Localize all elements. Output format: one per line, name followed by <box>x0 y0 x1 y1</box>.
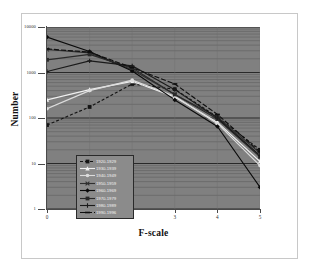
y-axis-tick-label: 1 <box>34 206 36 211</box>
y-axis-tick <box>38 164 45 165</box>
legend-marker-icon <box>79 165 96 172</box>
legend-item-label: 1920-1929 <box>96 158 116 165</box>
legend-item-label: 1970-1979 <box>96 195 116 202</box>
legend-item[interactable]: 1920-1929 <box>78 158 132 165</box>
x-axis-tick-label: 4 <box>211 214 223 220</box>
legend-item[interactable]: 1990-1996 <box>78 209 132 216</box>
x-axis-tick-label: 3 <box>169 214 181 220</box>
legend-item-label: 1980-1989 <box>96 202 116 209</box>
legend-item-label: 1950-1959 <box>96 180 116 187</box>
chart-figure: 100001000100101 012345 F-scale Number 19… <box>0 0 319 272</box>
y-axis-tick <box>38 73 45 74</box>
legend-item-label: 1940-1949 <box>96 172 116 179</box>
x-axis-tick-label: 5 <box>254 214 266 220</box>
y-axis-tick-label: 100 <box>29 115 36 120</box>
legend-item[interactable]: 1930-1939 <box>78 165 132 172</box>
legend-item-label: 1930-1939 <box>96 165 116 172</box>
legend-item[interactable]: 1940-1949 <box>78 172 132 179</box>
y-axis-tick-label: 10000 <box>24 24 36 29</box>
legend-item[interactable]: 1960-1969 <box>78 187 132 194</box>
legend-marker-icon <box>79 158 96 165</box>
legend-marker-icon <box>79 187 96 194</box>
x-axis-tick <box>217 209 218 213</box>
chart-legend: 1920-19291930-19391940-19491950-19591960… <box>76 155 134 219</box>
legend-item-label: 1990-1996 <box>96 209 116 216</box>
y-axis-line <box>46 26 47 210</box>
y-axis-tick <box>38 118 45 119</box>
legend-marker-icon <box>79 202 96 209</box>
y-axis-tick-label: 1000 <box>26 70 36 75</box>
x-axis-tick <box>175 209 176 213</box>
x-axis-tick <box>47 209 48 213</box>
y-axis-tick <box>38 209 45 210</box>
legend-marker-icon <box>79 195 96 202</box>
legend-item[interactable]: 1950-1959 <box>78 180 132 187</box>
y-axis-tick <box>38 27 45 28</box>
legend-marker-icon <box>79 172 96 179</box>
legend-item[interactable]: 1970-1979 <box>78 194 132 201</box>
legend-marker-icon <box>79 180 96 187</box>
y-axis-title: Number <box>10 74 20 144</box>
x-axis-tick <box>260 209 261 213</box>
legend-marker-icon <box>79 209 96 216</box>
y-axis-tick-label: 10 <box>31 161 36 166</box>
legend-item-label: 1960-1969 <box>96 187 116 194</box>
x-axis-tick-label: 0 <box>41 214 53 220</box>
legend-item[interactable]: 1980-1989 <box>78 202 132 209</box>
x-axis-title: F-scale <box>47 228 260 238</box>
